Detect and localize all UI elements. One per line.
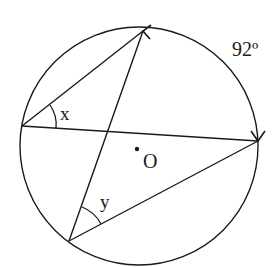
angle-y-label: y bbox=[100, 191, 110, 212]
circle-theorem-diagram: x y O 92º bbox=[0, 0, 272, 267]
circle bbox=[20, 27, 258, 265]
chord-bottom-to-right bbox=[69, 141, 258, 241]
center-label: O bbox=[143, 150, 157, 172]
angle-x-arc bbox=[50, 105, 56, 128]
chord-left-to-right bbox=[22, 126, 258, 141]
arc-measure-label: 92º bbox=[232, 38, 258, 60]
center-point bbox=[135, 147, 139, 151]
angle-y-arc bbox=[82, 207, 101, 224]
angle-x-label: x bbox=[60, 103, 70, 124]
